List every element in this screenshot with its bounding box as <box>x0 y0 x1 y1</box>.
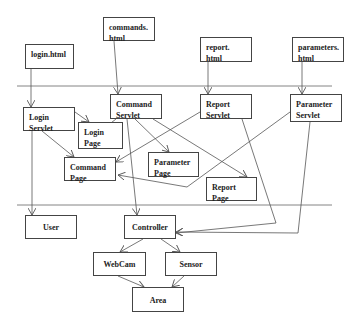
node-login-servlet: Login Servlet <box>23 107 75 131</box>
node-label: Sensor <box>166 259 216 270</box>
node-label: parameters. html <box>298 42 339 64</box>
node-label: Area <box>133 294 183 305</box>
node-command-page: Command Page <box>64 157 116 181</box>
node-report-page: Report Page <box>206 177 257 201</box>
node-label: Login Servlet <box>29 112 53 134</box>
edge-controller-to-sensor <box>161 239 180 252</box>
node-label: Login Page <box>84 127 104 149</box>
node-user: User <box>25 215 77 239</box>
edge-sensor-to-area <box>172 276 184 287</box>
edge-webcam-to-area <box>118 276 144 287</box>
node-report-servlet: Report Servlet <box>200 94 252 119</box>
node-label: Parameter Servlet <box>296 99 332 121</box>
node-commands-html: commands. html <box>103 17 155 41</box>
node-label: Controller <box>125 222 175 233</box>
node-login-page: Login Page <box>78 122 123 149</box>
edge-parameter-servlet-to-command-page <box>118 112 290 187</box>
architecture-diagram: login.htmlcommands. htmlreport. htmlpara… <box>0 0 358 329</box>
edge-controller-to-webcam <box>120 239 143 252</box>
node-label: WebCam <box>94 259 145 270</box>
node-label: report. html <box>206 42 230 64</box>
node-command-servlet: Command Servlet <box>110 94 162 119</box>
node-label: User <box>26 222 76 233</box>
edge-command-servlet-to-parameter-page <box>135 119 169 152</box>
node-controller: Controller <box>124 215 176 239</box>
node-report-html: report. html <box>200 37 252 62</box>
node-parameter-page: Parameter Page <box>148 152 199 177</box>
edge-login-servlet-to-login-page <box>75 112 89 122</box>
node-label: login.html <box>31 49 66 60</box>
node-label: Report Page <box>212 182 236 204</box>
edge-login-servlet-to-command-page <box>42 131 74 157</box>
node-webcam: WebCam <box>93 252 146 276</box>
node-label: commands. html <box>109 22 148 44</box>
node-label: Report Servlet <box>206 99 230 121</box>
node-label: Parameter Page <box>154 157 190 179</box>
node-parameter-servlet: Parameter Servlet <box>290 94 342 122</box>
node-area: Area <box>132 287 184 312</box>
node-parameters-html: parameters. html <box>292 37 344 62</box>
node-sensor: Sensor <box>165 252 217 276</box>
node-login-html: login.html <box>25 44 74 69</box>
node-label: Command Page <box>70 162 106 184</box>
node-label: Command Servlet <box>116 99 152 121</box>
edge-command-servlet-to-controller <box>127 119 137 215</box>
